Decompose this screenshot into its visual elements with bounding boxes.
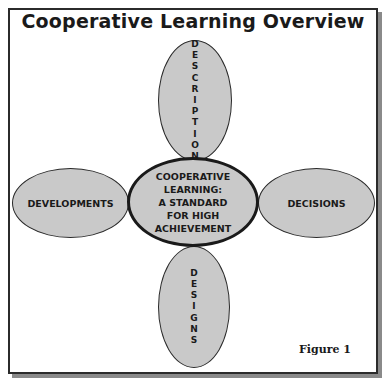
vertical-letter: E [192, 50, 198, 61]
center-line: A STANDARD [155, 196, 232, 209]
vertical-letter: O [191, 140, 199, 151]
vertical-letter: D [191, 39, 198, 50]
node-decisions: DECISIONS [258, 168, 375, 238]
node-description: DESCRIPTION [158, 40, 232, 161]
node-designs-label: DESIGNS [190, 268, 198, 346]
vertical-letter: S [191, 335, 197, 346]
node-center-cooperative-learning: COOPERATIVE LEARNING: A STANDARD FOR HIG… [127, 157, 259, 247]
vertical-letter: I [192, 301, 195, 312]
diagram-title: Cooperative Learning Overview [0, 10, 386, 32]
center-line: FOR HIGH [155, 209, 232, 222]
node-developments-label: DEVELOPMENTS [27, 198, 113, 209]
vertical-letter: D [190, 268, 197, 279]
node-designs: DESIGNS [158, 246, 230, 368]
vertical-letter: T [192, 117, 198, 128]
node-description-label: DESCRIPTION [191, 39, 199, 162]
vertical-letter: E [191, 279, 197, 290]
vertical-letter: P [192, 106, 199, 117]
center-line: COOPERATIVE [155, 170, 232, 183]
node-developments: DEVELOPMENTS [12, 168, 129, 238]
vertical-letter: R [192, 84, 199, 95]
figure-caption: Figure 1 [299, 343, 351, 356]
node-decisions-label: DECISIONS [287, 198, 345, 209]
vertical-letter: I [193, 95, 196, 106]
vertical-letter: N [190, 324, 198, 335]
vertical-letter: G [190, 313, 197, 324]
center-label: COOPERATIVE LEARNING: A STANDARD FOR HIG… [155, 170, 232, 235]
vertical-letter: S [191, 290, 197, 301]
vertical-letter: S [192, 61, 198, 72]
center-line: ACHIEVEMENT [155, 222, 232, 235]
vertical-letter: I [193, 129, 196, 140]
vertical-letter: C [192, 73, 199, 84]
center-line: LEARNING: [155, 183, 232, 196]
